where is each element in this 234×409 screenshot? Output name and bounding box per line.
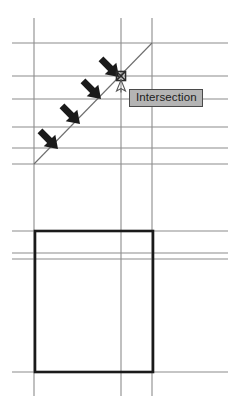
rectangle-profile[interactable] [35,231,153,372]
arrow-2 [77,75,107,105]
arrow-1-body [95,53,125,83]
annotation-arrows [34,53,125,155]
rectangle-outline[interactable] [35,231,153,372]
snap-tooltip: Intersection [129,89,203,107]
arrow-2-body [77,75,107,105]
arrow-4-body [34,125,64,155]
drawing-canvas[interactable]: Intersection [0,0,234,409]
arrow-1 [95,53,125,83]
arrow-4 [34,125,64,155]
cad-drawing[interactable] [0,0,234,409]
vertical-grid-lines [34,18,152,396]
snap-tooltip-label: Intersection [136,92,197,104]
